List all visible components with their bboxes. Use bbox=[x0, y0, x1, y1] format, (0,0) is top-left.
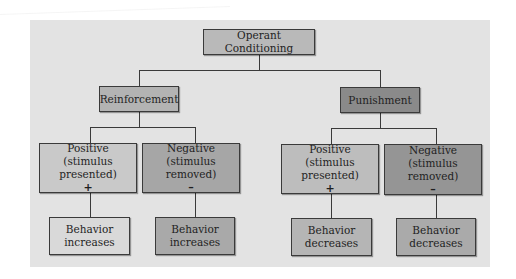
node-title: Positive bbox=[67, 142, 108, 155]
connector bbox=[90, 127, 195, 128]
negative-reinforcement-node: Negative (stimulus removed) – bbox=[142, 143, 240, 193]
connector bbox=[436, 128, 437, 144]
node-title: Negative bbox=[409, 144, 457, 157]
outcome-line1: Behavior bbox=[66, 223, 114, 236]
node-label: Operant Conditioning bbox=[204, 29, 314, 55]
outcome-line2: decreases bbox=[409, 237, 462, 250]
node-subtitle: (stimulus removed) bbox=[385, 157, 481, 183]
outcome-node: Behavior increases bbox=[49, 217, 130, 255]
outcome-node: Behavior increases bbox=[155, 217, 235, 255]
connector bbox=[90, 193, 91, 217]
connector bbox=[380, 113, 381, 128]
positive-reinforcement-node: Positive (stimulus presented) + bbox=[39, 143, 137, 193]
connector bbox=[259, 55, 260, 70]
outcome-line2: increases bbox=[64, 236, 115, 249]
node-subtitle: (stimulus removed) bbox=[143, 155, 239, 181]
reinforcement-node: Reinforcement bbox=[99, 86, 179, 112]
node-title: Positive bbox=[309, 143, 350, 156]
node-subtitle: (stimulus presented) bbox=[282, 156, 378, 182]
node-label: Reinforcement bbox=[100, 93, 179, 106]
connector bbox=[195, 127, 196, 143]
connector bbox=[331, 128, 436, 129]
connector bbox=[380, 70, 381, 87]
connector bbox=[436, 195, 437, 218]
punishment-node: Punishment bbox=[340, 87, 420, 113]
node-label: Punishment bbox=[348, 94, 411, 107]
outcome-line1: Behavior bbox=[308, 224, 356, 237]
page-edge-line bbox=[0, 0, 230, 15]
plus-sign: + bbox=[83, 181, 92, 194]
outcome-node: Behavior decreases bbox=[396, 218, 476, 256]
connector bbox=[139, 112, 140, 127]
connector bbox=[195, 193, 196, 217]
positive-punishment-node: Positive (stimulus presented) + bbox=[281, 144, 379, 194]
plus-sign: + bbox=[325, 182, 334, 195]
operant-conditioning-node: Operant Conditioning bbox=[203, 29, 315, 55]
negative-punishment-node: Negative (stimulus removed) – bbox=[384, 144, 482, 195]
connector bbox=[139, 70, 140, 86]
connector bbox=[90, 127, 91, 143]
connector bbox=[331, 128, 332, 144]
outcome-line1: Behavior bbox=[412, 224, 460, 237]
minus-sign: – bbox=[188, 181, 194, 194]
outcome-line2: decreases bbox=[305, 237, 358, 250]
outcome-node: Behavior decreases bbox=[291, 218, 372, 256]
outcome-line2: increases bbox=[170, 236, 221, 249]
connector bbox=[139, 70, 380, 71]
node-subtitle: (stimulus presented) bbox=[40, 155, 136, 181]
node-title: Negative bbox=[167, 142, 215, 155]
minus-sign: – bbox=[430, 183, 436, 196]
connector bbox=[331, 194, 332, 218]
outcome-line1: Behavior bbox=[171, 223, 219, 236]
